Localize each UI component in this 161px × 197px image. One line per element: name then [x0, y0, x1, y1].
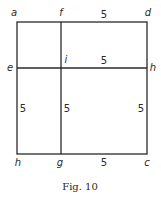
figure-caption: Fig. 10: [62, 181, 98, 192]
point-label-i: i: [65, 54, 68, 65]
figure-lines: [17, 22, 147, 154]
point-label-h-bottom: h: [15, 157, 21, 168]
point-label-d: d: [145, 7, 152, 18]
length-fd: 5: [101, 9, 107, 20]
length-right-side: 5: [138, 103, 144, 114]
point-label-h-right: h: [150, 62, 156, 73]
point-label-f: f: [59, 7, 64, 18]
point-label-e: e: [7, 62, 13, 73]
length-gc: 5: [101, 157, 107, 168]
length-ig: 5: [64, 103, 70, 114]
point-label-a: a: [11, 7, 17, 18]
point-label-c: c: [144, 157, 150, 168]
length-left-side: 5: [20, 103, 26, 114]
point-label-g: g: [57, 157, 63, 168]
length-ih: 5: [101, 55, 107, 66]
outer-rectangle: [17, 22, 147, 154]
figure-diagram: a f d e i h h g c 5 5 5 5 5 5 Fig. 10: [0, 0, 161, 197]
